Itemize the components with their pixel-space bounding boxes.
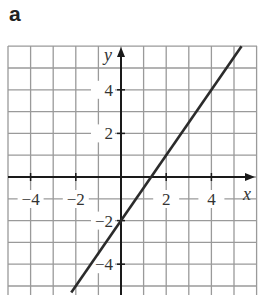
y-tick-label: −4 [95,255,114,274]
grid-lines [8,46,257,295]
line-chart: xy −4−22442−2−4 [0,0,262,295]
x-axis-label: x [242,184,251,204]
x-tick-label: −4 [22,190,41,209]
y-tick-label: 4 [105,81,114,100]
y-axis-label: y [102,45,112,65]
x-tick-label: 4 [207,190,216,209]
y-axis-arrow-icon [117,47,125,57]
x-tick-label: 2 [162,190,171,209]
y-tick-label: −2 [95,212,113,231]
x-axis-arrow-icon [245,173,255,181]
y-tick-label: 2 [105,124,114,143]
x-tick-label: −2 [67,190,85,209]
